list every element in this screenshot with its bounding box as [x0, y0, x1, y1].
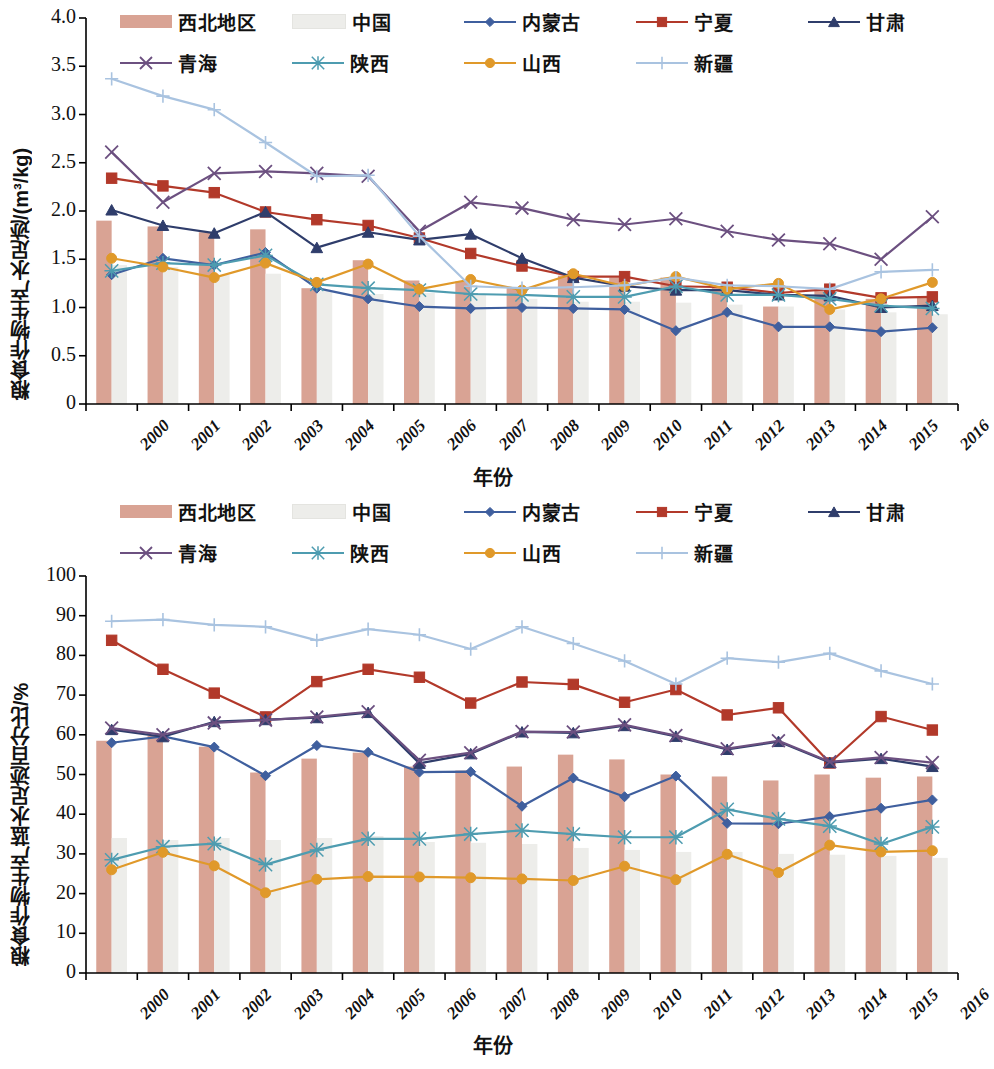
data-point: [772, 656, 785, 669]
y-tick-label: 3.0: [20, 102, 76, 125]
x-tick-label: 2016: [956, 985, 994, 1023]
data-point: [158, 262, 168, 272]
data-point: [926, 677, 939, 690]
data-point: [517, 874, 527, 884]
legend-swatch-shaanxi: [292, 546, 344, 559]
legend-swatch-xinjiang: [636, 546, 688, 559]
legend-item-neimenggu[interactable]: 内蒙古: [464, 498, 636, 525]
data-point: [209, 861, 219, 871]
y-tick-label: 0: [20, 391, 76, 414]
y-tick-label: 90: [20, 603, 76, 626]
data-point: [925, 820, 939, 834]
y-tick-label: 3.5: [20, 53, 76, 76]
bar: [301, 759, 316, 973]
bar: [199, 232, 214, 404]
legend-item-shanxi[interactable]: 山西: [464, 539, 636, 566]
data-point: [876, 847, 886, 857]
bar: [404, 767, 419, 973]
data-point: [875, 253, 888, 266]
y-tick-label: 30: [20, 841, 76, 864]
line-series-1: [106, 635, 937, 768]
x-tick-label: 2001: [187, 416, 225, 454]
legend-swatch-shanxi: [464, 546, 516, 559]
bar: [660, 278, 675, 404]
bar: [676, 303, 691, 404]
plot-area-top: 00.51.01.52.02.53.03.54.0200020012002200…: [86, 18, 958, 404]
data-point: [771, 812, 785, 826]
y-tick-label: 70: [20, 682, 76, 705]
data-point: [312, 874, 322, 884]
bar: [96, 221, 111, 404]
data-point: [312, 277, 322, 287]
bar: [112, 265, 127, 404]
legend-item-gansu[interactable]: 甘肃: [808, 498, 980, 525]
legend-label-shaanxi: 陕西: [350, 539, 389, 566]
y-tick-label: 20: [20, 881, 76, 904]
line-series-3: [105, 146, 939, 266]
data-point: [825, 304, 835, 314]
legend-item-qinghai[interactable]: 青海: [120, 539, 292, 566]
legend-label-gansu: 甘肃: [866, 498, 905, 525]
bar: [404, 280, 419, 404]
data-point: [208, 103, 221, 116]
data-point: [876, 711, 886, 721]
data-point: [157, 196, 170, 209]
data-point: [568, 875, 578, 885]
data-point: [722, 849, 732, 859]
bar: [214, 838, 229, 973]
bar: [368, 294, 383, 404]
legend-swatch-gansu: [808, 505, 860, 518]
data-point: [620, 861, 630, 871]
legend-item-xinjiang[interactable]: 新疆: [636, 539, 808, 566]
bar: [301, 288, 316, 404]
legend-swatch-ningxia: [636, 505, 688, 518]
data-point: [156, 90, 169, 103]
x-tick-label: 2008: [546, 416, 584, 454]
bar: [866, 299, 881, 404]
data-point: [312, 741, 322, 751]
y-tick-label: 80: [20, 642, 76, 665]
legend-swatch-china: [292, 504, 346, 519]
legend-item-china[interactable]: 中国: [292, 498, 464, 525]
bar: [266, 274, 281, 404]
bar: [625, 302, 640, 404]
data-point: [105, 615, 118, 628]
x-axis-label-bottom: 年份: [0, 1030, 986, 1059]
y-tick-label: 0.5: [20, 343, 76, 366]
bar: [522, 299, 537, 404]
data-point: [823, 819, 837, 833]
data-point: [361, 281, 375, 295]
data-point: [414, 872, 424, 882]
bar: [573, 302, 588, 404]
bar: [353, 260, 368, 404]
chart-panel-top: 西北地区中国内蒙古宁夏甘肃青海陕西山西新疆 粮食作物生产水足迹/(m³/kg) …: [0, 0, 986, 500]
data-point: [617, 830, 631, 844]
legend-item-shaanxi[interactable]: 陕西: [292, 539, 464, 566]
data-point: [106, 205, 118, 216]
data-point: [361, 832, 375, 846]
data-point: [412, 832, 426, 846]
legend-item-ningxia[interactable]: 宁夏: [636, 498, 808, 525]
x-tick-label: 2013: [802, 416, 840, 454]
data-point: [567, 637, 580, 650]
data-point: [926, 210, 939, 223]
data-point: [310, 634, 323, 647]
bar: [881, 856, 896, 973]
x-tick-label: 2003: [289, 985, 327, 1023]
data-point: [568, 679, 578, 689]
data-point: [823, 647, 836, 660]
legend-label-ningxia: 宁夏: [694, 498, 733, 525]
data-point: [156, 613, 169, 626]
data-point: [363, 872, 373, 882]
data-point: [619, 697, 629, 707]
x-tick-label: 2014: [854, 416, 892, 454]
bar: [727, 852, 742, 973]
data-point: [363, 664, 373, 674]
data-point: [464, 642, 477, 655]
legend-item-northwest[interactable]: 西北地区: [120, 498, 292, 525]
x-tick-label: 2005: [392, 985, 430, 1023]
bar: [712, 287, 727, 404]
y-tick-label: 10: [20, 920, 76, 943]
chart-panel-bottom: 西北地区中国内蒙古宁夏甘肃青海陕西山西新疆 粮食作物生产蓝水足迹百分比/% 01…: [0, 490, 986, 1069]
